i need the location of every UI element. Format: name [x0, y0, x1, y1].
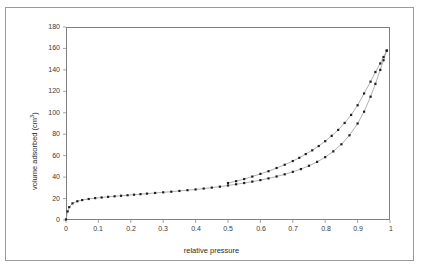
- x-tick-label: 0.5: [218, 225, 238, 233]
- x-tick-label: 0: [56, 225, 76, 233]
- x-tick-label: 0.8: [316, 225, 336, 233]
- x-tick-label: 1: [381, 225, 401, 233]
- y-tick-label: 60: [38, 152, 60, 160]
- y-tick-label: 0: [38, 216, 60, 224]
- x-tick-label: 0.2: [121, 225, 141, 233]
- x-tick-label: 0.6: [251, 225, 271, 233]
- y-tick-label: 80: [38, 130, 60, 138]
- y-tick-label: 120: [38, 87, 60, 95]
- y-axis-title: volume adsorbed (cm3): [30, 112, 39, 190]
- x-tick-label: 0.4: [186, 225, 206, 233]
- y-axis-title-superscript: 3: [29, 115, 35, 118]
- y-tick-label: 140: [38, 66, 60, 74]
- y-axis-title-text: volume adsorbed (cm: [30, 118, 39, 190]
- y-tick-label: 160: [38, 44, 60, 52]
- y-axis-title-suffix: ): [30, 112, 39, 115]
- y-tick-label: 100: [38, 109, 60, 117]
- x-axis-title: relative pressure: [0, 246, 423, 255]
- chart-figure: 180 160 140 120 100 80 60 40 20 0 0 0.1 …: [0, 0, 423, 269]
- y-tick-label: 40: [38, 173, 60, 181]
- x-tick-label: 0.1: [88, 225, 108, 233]
- x-tick-label: 0.9: [348, 225, 368, 233]
- x-tick-label: 0.7: [283, 225, 303, 233]
- plot-area: [66, 27, 390, 220]
- y-tick-label: 180: [38, 23, 60, 31]
- x-tick-label: 0.3: [153, 225, 173, 233]
- y-tick-label: 20: [38, 195, 60, 203]
